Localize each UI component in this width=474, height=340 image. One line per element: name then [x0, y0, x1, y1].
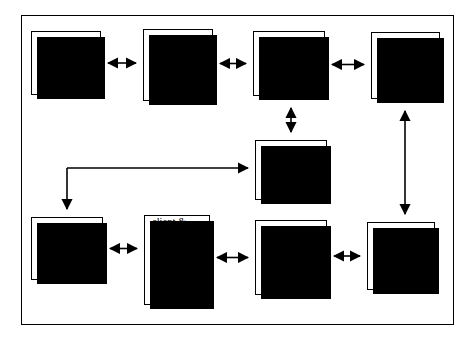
- node-label: evaluator edits & represents possible al…: [151, 34, 209, 97]
- diagram-canvas: client feedback about initial findingsev…: [0, 0, 474, 340]
- node-label: client & evaluator rate recommen- dation…: [263, 226, 323, 289]
- node-label: client & evaluator represent decisions a…: [152, 216, 206, 304]
- node-client-evaluator-rate: client & evaluator rate recommen- dation…: [255, 220, 327, 295]
- node-evaluator-makes-recommendations: evaluator makes recommen- dations: [255, 140, 327, 200]
- node-label: client reacts to recommen- dations: [39, 223, 99, 273]
- node-label: evaluator makes recommen- dations: [263, 145, 323, 195]
- node-move-to-phase-4: move to Phase 4: [371, 32, 440, 99]
- node-evaluator-edits: evaluator edits & represents possible al…: [143, 29, 213, 101]
- node-client-evaluator-represent: client & evaluator represent decisions a…: [144, 215, 210, 305]
- node-evaluator-presents: evaluator presents delivery plan: [367, 222, 435, 290]
- node-label: client feedback about initial findings: [39, 38, 97, 88]
- node-evaluator-rates: evaluator rates or prioritizes alternati…: [253, 31, 325, 96]
- node-label: move to Phase 4: [372, 53, 439, 78]
- node-client-feedback: client feedback about initial findings: [31, 31, 101, 95]
- node-client-reacts: client reacts to recommen- dations: [31, 217, 103, 280]
- node-label: evaluator rates or prioritizes alternati…: [261, 38, 321, 88]
- node-label: evaluator presents delivery plan: [375, 231, 431, 281]
